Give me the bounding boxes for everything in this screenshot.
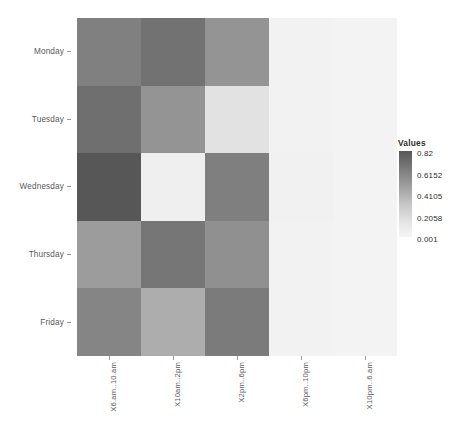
y-axis-tick-friday: Friday <box>0 288 72 356</box>
y-axis-tick-mark <box>67 51 71 52</box>
heatmap-grid <box>77 18 397 356</box>
x-axis-tick-0: X6.am..10.am <box>77 356 141 428</box>
heatmap-cell <box>269 86 333 154</box>
legend-tick-label: 0.82 <box>417 149 433 158</box>
y-axis-tick-monday: Monday <box>0 18 72 86</box>
heatmap-cell <box>269 18 333 86</box>
legend-title: Values <box>398 138 426 148</box>
heatmap-cell <box>269 153 333 221</box>
y-axis-tick-mark <box>67 254 71 255</box>
y-axis-tick-mark <box>67 119 71 120</box>
x-axis-tick-mark <box>173 356 174 360</box>
x-axis-tick-mark <box>365 356 366 360</box>
heatmap-cell <box>77 221 141 289</box>
heatmap-cell <box>77 18 141 86</box>
heatmap-cell <box>333 221 397 289</box>
legend-tick-label: 0.6152 <box>417 171 442 180</box>
x-axis-tick-1: X10am..2pm <box>141 356 205 428</box>
y-axis-tick-label: Monday <box>34 47 67 56</box>
x-axis-tick-label: X10pm..6.am <box>365 362 374 409</box>
heatmap-cell <box>205 221 269 289</box>
y-axis-tick-mark <box>67 322 71 323</box>
heatmap-cell <box>333 153 397 221</box>
heatmap-cell <box>269 288 333 356</box>
heatmap-cell <box>77 86 141 154</box>
y-axis-tick-tuesday: Tuesday <box>0 86 72 154</box>
heatmap-cell <box>269 221 333 289</box>
x-axis: X6.am..10.am X10am..2pm X2pm..6pm X6pm..… <box>77 356 397 428</box>
heatmap-cell <box>77 288 141 356</box>
x-axis-tick-label: X10am..2pm <box>173 362 182 407</box>
x-axis-tick-mark <box>301 356 302 360</box>
heatmap-cell <box>205 18 269 86</box>
heatmap-cell <box>141 153 205 221</box>
x-axis-tick-mark <box>109 356 110 360</box>
x-axis-tick-label: X2pm..6pm <box>237 362 246 403</box>
heatmap-cell <box>205 86 269 154</box>
heatmap-cell <box>205 153 269 221</box>
x-axis-tick-label: X6.am..10.am <box>109 362 118 412</box>
y-axis: Monday Tuesday Wednesday Thursday Friday <box>0 18 72 356</box>
heatmap-plot: Monday Tuesday Wednesday Thursday Friday… <box>0 0 464 428</box>
y-axis-tick-label: Thursday <box>29 250 67 259</box>
x-axis-tick-4: X10pm..6.am <box>333 356 397 428</box>
heatmap-cell <box>141 288 205 356</box>
heatmap-panel <box>77 18 397 356</box>
legend-tick-label: 0.001 <box>417 235 438 244</box>
y-axis-tick-label: Tuesday <box>32 115 67 124</box>
x-axis-tick-2: X2pm..6pm <box>205 356 269 428</box>
y-axis-tick-thursday: Thursday <box>0 221 72 289</box>
heatmap-cell <box>77 153 141 221</box>
heatmap-cell <box>141 18 205 86</box>
legend-tick-label: 0.4105 <box>417 192 442 201</box>
legend: Values 0.820.61520.41050.20580.001 <box>398 138 464 248</box>
heatmap-cell <box>141 221 205 289</box>
heatmap-cell <box>141 86 205 154</box>
heatmap-cell <box>205 288 269 356</box>
heatmap-cell <box>333 86 397 154</box>
x-axis-tick-mark <box>237 356 238 360</box>
y-axis-tick-mark <box>67 186 71 187</box>
x-axis-tick-3: X6pm..10pm <box>269 356 333 428</box>
y-axis-tick-wednesday: Wednesday <box>0 153 72 221</box>
heatmap-cell <box>333 288 397 356</box>
y-axis-tick-label: Wednesday <box>20 182 67 191</box>
legend-tick-label: 0.2058 <box>417 214 442 223</box>
legend-colorbar <box>399 151 412 237</box>
y-axis-tick-label: Friday <box>40 318 67 327</box>
x-axis-tick-label: X6pm..10pm <box>301 362 310 407</box>
heatmap-cell <box>333 18 397 86</box>
legend-tick-labels: 0.820.61520.41050.20580.001 <box>417 149 463 239</box>
